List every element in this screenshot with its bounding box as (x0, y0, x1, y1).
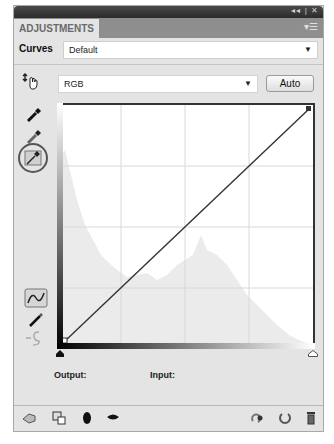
adjustments-panel: ◂◂ | ✕ ADJUSTMENTS ▾☰ Curves Default ▼ R… (13, 5, 324, 432)
panel-menu-icon[interactable]: ▾☰ (304, 21, 318, 32)
channel-value: RGB (64, 79, 84, 89)
tab-row: ADJUSTMENTS ▾☰ (14, 18, 323, 38)
window-controls[interactable]: ◂◂ | ✕ (291, 6, 319, 15)
panel-titlebar[interactable]: ◂◂ | ✕ (14, 6, 323, 18)
preset-row: Curves Default ▼ (14, 38, 323, 65)
preset-value: Default (69, 45, 98, 55)
view-previous-state-icon[interactable] (106, 411, 120, 425)
input-label: Input: (150, 370, 175, 380)
auto-button[interactable]: Auto (266, 75, 314, 92)
input-gradient-bar (57, 343, 315, 349)
back-arrow-icon[interactable] (22, 411, 36, 425)
adjustment-type-label: Curves (19, 43, 53, 54)
reset-previous-icon[interactable] (250, 411, 264, 425)
tab-adjustments[interactable]: ADJUSTMENTS (14, 19, 99, 38)
preset-dropdown[interactable]: Default ▼ (63, 41, 318, 59)
channel-dropdown[interactable]: RGB ▼ (58, 75, 258, 93)
draw-pencil-icon[interactable] (26, 310, 46, 330)
chevron-down-icon: ▼ (244, 76, 252, 92)
delete-icon[interactable] (304, 411, 318, 425)
black-point-slider[interactable] (56, 350, 64, 357)
clip-to-layer-icon[interactable] (52, 411, 66, 425)
white-point-slider[interactable] (308, 350, 318, 357)
curves-graph[interactable] (57, 103, 315, 349)
reset-icon[interactable] (278, 411, 292, 425)
curve-point-end (306, 106, 311, 111)
output-label: Output: (54, 370, 86, 380)
visibility-toggle-icon[interactable] (80, 411, 94, 425)
curve-canvas[interactable] (57, 105, 313, 349)
edit-points-curve-icon[interactable] (24, 288, 48, 308)
black-point-eyedropper-icon[interactable] (24, 104, 44, 124)
output-gradient-bar (57, 103, 63, 349)
on-image-adjust-hand-icon[interactable] (22, 72, 40, 90)
smooth-curve-icon (24, 328, 44, 348)
panel-footer (14, 405, 323, 432)
white-point-eyedropper-icon[interactable] (17, 142, 49, 174)
chevron-down-icon: ▼ (304, 42, 312, 58)
